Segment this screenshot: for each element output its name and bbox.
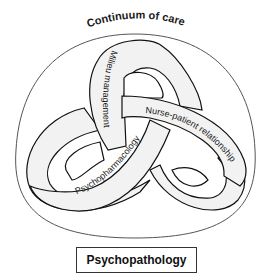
knot-hole-right [172,168,208,186]
psychopathology-label: Psychopathology [86,253,186,267]
knot-diagram: Continuum of care Milieu management Nurs… [0,0,271,280]
continuum-of-care-label: Continuum of care [85,8,187,29]
knot-hole-top [124,72,163,98]
psychopathology-box: Psychopathology [76,247,197,273]
